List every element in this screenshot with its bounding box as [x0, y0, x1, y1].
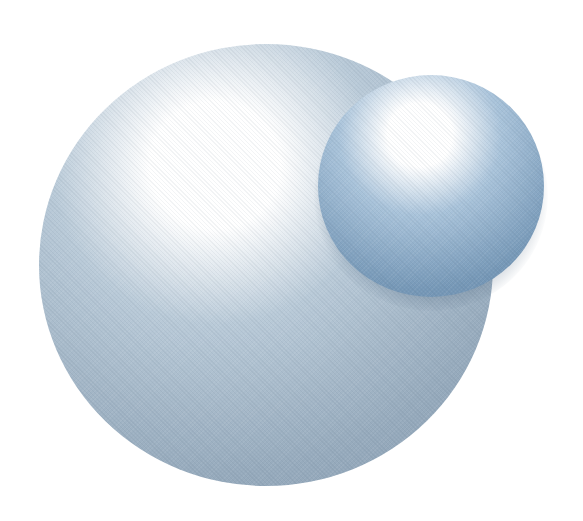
small-sphere [318, 75, 544, 297]
small-sphere-texture [318, 75, 544, 297]
illustration-canvas [0, 0, 583, 521]
